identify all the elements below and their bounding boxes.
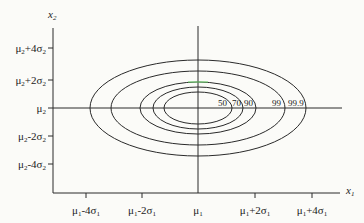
x-tick-label: μ1+2σ1 [240, 204, 271, 220]
x-tick-label: μ1 [193, 204, 202, 220]
x-tick-label: μ1-2σ1 [128, 204, 156, 220]
contour-label-99-9: 99.9 [288, 98, 304, 108]
y-tick-label: μ2 [37, 102, 46, 118]
y-axis-label: x2 [48, 8, 56, 22]
x-axis-label: x1 [346, 184, 354, 198]
contour-diagram [0, 0, 364, 223]
contour-label-90: 90 [244, 98, 253, 108]
x-tick-label: μ1-4σ1 [72, 204, 100, 220]
y-tick-label: μ2+4σ2 [15, 42, 46, 58]
y-tick-label: μ2-4σ2 [18, 158, 46, 174]
contour-label-50: 50 [218, 98, 227, 108]
x-tick-label: μ1+4σ1 [297, 204, 328, 220]
contour-label-99: 99 [272, 98, 281, 108]
y-tick-label: μ2-2σ2 [18, 130, 46, 146]
contour-label-70: 70 [232, 98, 241, 108]
y-tick-label: μ2+2σ2 [15, 74, 46, 90]
